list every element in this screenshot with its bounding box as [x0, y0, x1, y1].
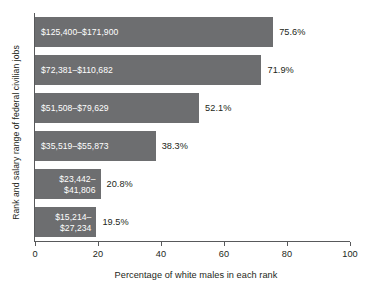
- x-axis-tick-label: 60: [204, 248, 244, 260]
- bar-category-label: $23,442–$41,806: [59, 174, 95, 195]
- y-axis-title: Rank and salary range of federal civilia…: [8, 10, 24, 255]
- x-axis-tick-label: 80: [267, 248, 307, 260]
- plot-area: $125,400–$171,90075.6%$72,381–$110,68271…: [35, 13, 350, 241]
- bar-row: $51,508–$79,62952.1%: [35, 93, 350, 123]
- bar-chart: Rank and salary range of federal civilia…: [0, 0, 392, 289]
- x-axis-tick-label: 0: [15, 248, 55, 260]
- bar[interactable]: $51,508–$79,629: [35, 93, 199, 123]
- bar-value-label: 20.8%: [107, 169, 133, 199]
- bar[interactable]: $15,214–$27,234: [35, 207, 96, 237]
- x-axis-tick-label: 100: [330, 248, 370, 260]
- x-axis-tick-mark: [161, 242, 162, 246]
- x-axis-tick-mark: [287, 242, 288, 246]
- bar-category-label: $51,508–$79,629: [41, 103, 109, 114]
- bar-value-label: 19.5%: [102, 207, 128, 237]
- x-axis-tick-mark: [224, 242, 225, 246]
- bar-value-label: 52.1%: [205, 93, 231, 123]
- bar-row: $15,214–$27,23419.5%: [35, 207, 350, 237]
- x-axis-tick-label: 20: [78, 248, 118, 260]
- x-axis-tick-mark: [35, 242, 36, 246]
- x-axis-tick-mark: [98, 242, 99, 246]
- x-axis-line: [34, 241, 350, 242]
- bar-value-label: 75.6%: [279, 17, 305, 47]
- bar[interactable]: $23,442–$41,806: [35, 169, 101, 199]
- bar-category-label: $125,400–$171,900: [41, 27, 118, 38]
- bar-row: $23,442–$41,80620.8%: [35, 169, 350, 199]
- x-axis-tick-label: 40: [141, 248, 181, 260]
- bar-value-label: 38.3%: [162, 131, 188, 161]
- bar[interactable]: $72,381–$110,682: [35, 55, 261, 85]
- x-axis-tick-mark: [350, 242, 351, 246]
- bar-row: $72,381–$110,68271.9%: [35, 55, 350, 85]
- x-axis-title: Percentage of white males in each rank: [0, 269, 392, 281]
- bar[interactable]: $125,400–$171,900: [35, 17, 273, 47]
- bar-category-label: $15,214–$27,234: [55, 212, 91, 233]
- bar-value-label: 71.9%: [267, 55, 293, 85]
- bar-row: $35,519–$55,87338.3%: [35, 131, 350, 161]
- bar-category-label: $72,381–$110,682: [41, 65, 113, 76]
- bar[interactable]: $35,519–$55,873: [35, 131, 156, 161]
- bar-category-label: $35,519–$55,873: [41, 141, 109, 152]
- bar-row: $125,400–$171,90075.6%: [35, 17, 350, 47]
